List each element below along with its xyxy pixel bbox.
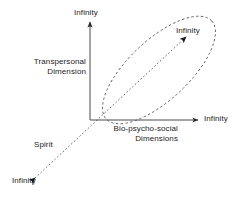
diagram-canvas: Infinity Infinity Infinity Transpersonal… [0, 0, 248, 200]
label-ellipse-infinity: Infinity [176, 26, 200, 36]
label-bio-psycho-social-dimensions: Bio-psycho-social Dimensions [106, 124, 178, 144]
label-horizontal-axis-infinity: Infinity [204, 114, 228, 124]
label-diagonal-axis-infinity: Infinity [12, 176, 36, 186]
label-spirit: Spirit [34, 140, 53, 150]
diagram-vector-layer [0, 0, 248, 200]
label-transpersonal-dimension: Transpersonal Dimension [14, 57, 86, 77]
label-vertical-axis-infinity: Infinity [74, 8, 98, 18]
